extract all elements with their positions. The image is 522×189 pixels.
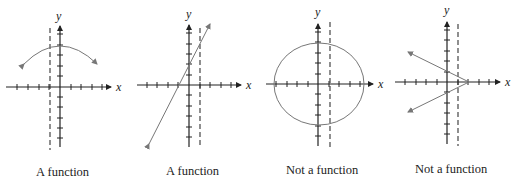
panel-1-graph: y x: [6, 9, 122, 150]
x-axis-label: x: [377, 77, 384, 91]
caption-panel-3: Not a function: [286, 163, 358, 178]
x-axis-label: x: [245, 78, 252, 92]
x-axis-label: x: [115, 80, 122, 94]
panel-3-graph: y x: [266, 5, 384, 148]
upper-ray: [408, 52, 469, 82]
x-axis-label: x: [504, 75, 511, 89]
panel-2-graph: y x: [137, 7, 252, 148]
lower-ray: [408, 82, 469, 112]
caption-panel-2: A function: [166, 164, 219, 179]
caption-panel-4: Not a function: [415, 162, 487, 177]
linear-graph: [149, 24, 210, 144]
panel-4-graph: y x: [395, 3, 511, 146]
y-axis-label: y: [314, 5, 321, 19]
vertical-line-test-figure: y x y x y x: [0, 0, 522, 189]
y-axis-label: y: [55, 9, 62, 23]
y-axis-label: y: [185, 7, 192, 21]
caption-panel-1: A function: [36, 165, 89, 180]
y-axis-label: y: [443, 3, 450, 17]
